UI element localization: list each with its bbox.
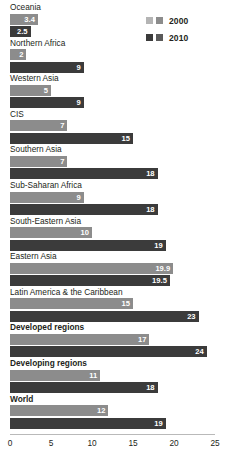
bar-2000[interactable]: 3.4	[10, 14, 38, 25]
category-label: Oceania	[10, 2, 41, 12]
bar-group: Latin America & the Caribbean1523	[0, 287, 228, 323]
bar-group: Northern Africa29	[0, 38, 228, 74]
bar-2000[interactable]: 19.9	[10, 263, 173, 274]
bar-2000[interactable]: 9	[10, 192, 84, 203]
x-tick-label: 10	[87, 438, 96, 448]
category-label: World	[10, 394, 33, 404]
bar-group: Developing regions1118	[0, 358, 228, 394]
bar-group: Western Asia59	[0, 73, 228, 109]
category-label: Western Asia	[10, 73, 59, 83]
bar-value-label: 2	[19, 49, 26, 60]
bar-2010[interactable]: 18	[10, 204, 158, 215]
bar-2000[interactable]: 12	[10, 405, 108, 416]
bar-group: CIS715	[0, 109, 228, 145]
category-label: Southern Asia	[10, 144, 62, 154]
category-label: Developed regions	[10, 322, 84, 332]
bar-value-label: 19.9	[155, 263, 173, 274]
bar-group: Sub-Saharan Africa918	[0, 180, 228, 216]
plot-area: Oceania3.42.5Northern Africa29Western As…	[0, 0, 228, 429]
bar-value-label: 2.5	[17, 26, 31, 37]
bar-2010[interactable]: 18	[10, 168, 158, 179]
bar-group: Southern Asia718	[0, 144, 228, 180]
bar-2000[interactable]: 11	[10, 370, 100, 381]
bar-value-label: 9	[77, 97, 84, 108]
bar-2010[interactable]: 19	[10, 240, 166, 251]
bar-group: Developed regions1724	[0, 322, 228, 358]
bar-chart: 2000 2010 Oceania3.42.5Northern Africa29…	[0, 0, 228, 457]
category-label: Northern Africa	[10, 38, 65, 48]
bar-value-label: 7	[60, 156, 67, 167]
bar-group: South-Eastern Asia1019	[0, 216, 228, 252]
bar-group: Eastern Asia19.919.5	[0, 251, 228, 287]
bar-value-label: 18	[146, 382, 157, 393]
bar-value-label: 11	[89, 370, 100, 381]
bar-2010[interactable]: 18	[10, 382, 158, 393]
bar-2000[interactable]: 15	[10, 298, 133, 309]
bar-value-label: 10	[81, 227, 92, 238]
category-label: South-Eastern Asia	[10, 216, 81, 226]
bar-value-label: 15	[122, 133, 133, 144]
bar-2010[interactable]: 19.5	[10, 275, 170, 286]
bar-value-label: 19	[154, 240, 165, 251]
bar-2010[interactable]: 19	[10, 418, 166, 429]
bar-value-label: 18	[146, 168, 157, 179]
x-tick-label: 15	[128, 438, 137, 448]
bar-2010[interactable]: 2.5	[10, 26, 31, 37]
bar-group: World1219	[0, 394, 228, 430]
bar-2000[interactable]: 2	[10, 49, 26, 60]
bar-value-label: 23	[187, 311, 198, 322]
bar-group: Oceania3.42.5	[0, 2, 228, 38]
bar-2000[interactable]: 5	[10, 85, 51, 96]
bar-2010[interactable]: 9	[10, 62, 84, 73]
bar-value-label: 15	[122, 298, 133, 309]
bar-value-label: 5	[44, 85, 51, 96]
bar-value-label: 24	[195, 346, 206, 357]
bar-2000[interactable]: 17	[10, 334, 149, 345]
category-label: Sub-Saharan Africa	[10, 180, 82, 190]
bar-2010[interactable]: 23	[10, 311, 199, 322]
bar-value-label: 12	[97, 405, 108, 416]
category-label: CIS	[10, 109, 24, 119]
bar-value-label: 17	[138, 334, 149, 345]
bar-value-label: 19.5	[152, 275, 170, 286]
x-tick-label: 5	[49, 438, 54, 448]
category-label: Eastern Asia	[10, 251, 57, 261]
bar-2000[interactable]: 7	[10, 156, 67, 167]
bar-value-label: 3.4	[24, 14, 38, 25]
x-tick-label: 0	[8, 438, 13, 448]
bar-2010[interactable]: 9	[10, 97, 84, 108]
bar-2010[interactable]: 24	[10, 346, 207, 357]
bar-value-label: 9	[77, 192, 84, 203]
bar-value-label: 18	[146, 204, 157, 215]
bar-2010[interactable]: 15	[10, 133, 133, 144]
bar-2000[interactable]: 7	[10, 120, 67, 131]
x-axis-ticks: 0510152025	[0, 438, 228, 452]
bar-value-label: 7	[60, 120, 67, 131]
bar-2000[interactable]: 10	[10, 227, 92, 238]
x-axis-line	[10, 434, 215, 435]
bar-value-label: 9	[77, 62, 84, 73]
x-tick-label: 20	[169, 438, 178, 448]
category-label: Latin America & the Caribbean	[10, 287, 123, 297]
category-label: Developing regions	[10, 358, 87, 368]
bar-value-label: 19	[154, 418, 165, 429]
x-tick-label: 25	[210, 438, 219, 448]
